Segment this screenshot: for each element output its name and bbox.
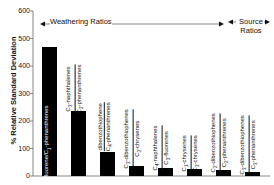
y-tick-label: 0 bbox=[14, 172, 30, 179]
bar-label: fluorene/C1-phenanthrenes bbox=[43, 105, 53, 177]
y-tick-label: 600 bbox=[14, 7, 30, 14]
bar bbox=[71, 111, 86, 176]
y-tick-label: 200 bbox=[14, 117, 30, 124]
bar-label: C3-naphthalenesC2-phenanthrenes bbox=[65, 65, 85, 114]
source-ratios-label-1: Source bbox=[239, 17, 263, 26]
bar-label: dibenzothiopheneC4-phenanthrenes bbox=[97, 102, 114, 151]
bar-label: C1-chrysenesC3-chrysenes bbox=[181, 135, 201, 171]
weathering-ratios-label: Weathering Ratios bbox=[50, 17, 112, 26]
bar-label: C3-dibenzothiophenesC3-chrysenes bbox=[123, 109, 143, 168]
y-tick-label: 500 bbox=[14, 35, 30, 42]
left-arrow-icon bbox=[40, 22, 45, 27]
bar-label: C3-dibenzothiophenesC3-phenanthrenes bbox=[239, 115, 259, 174]
weathering-ratios-annotation: Weathering Ratios bbox=[50, 17, 112, 26]
bar-label: C4-naphthalenesC3-fluorenes bbox=[152, 126, 172, 171]
source-ratios-annotation: Source Ratios bbox=[236, 17, 266, 35]
y-tick-label: 400 bbox=[14, 62, 30, 69]
bar bbox=[100, 152, 115, 176]
y-tick-label: 300 bbox=[14, 90, 30, 97]
y-tick-label: 100 bbox=[14, 145, 30, 152]
source-ratios-label-2: Ratios bbox=[240, 26, 261, 35]
right-arrow-icon bbox=[219, 22, 224, 27]
left-arrow-icon bbox=[228, 20, 233, 25]
bar-chart: % Relative Standard Deviation 0100200300… bbox=[0, 0, 274, 185]
bar-label: C2-dibenzothiophenesC2-phenanthrenes bbox=[210, 113, 230, 172]
